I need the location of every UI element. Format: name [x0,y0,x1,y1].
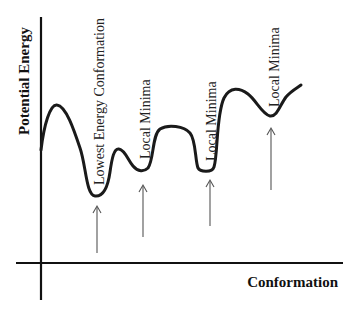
energy-curve [41,85,301,196]
arrow-lowest-energy [93,206,101,253]
energy-landscape-diagram: Potential Energy Conformation Lowest Ene… [0,0,358,312]
arrow-local-minima-2 [206,180,214,226]
annotation-local-minima-3: Local Minima [267,27,282,107]
arrow-local-minima-3 [267,128,275,190]
arrow-local-minima-1 [139,185,147,237]
annotation-local-minima-2: Local Minima [204,81,219,161]
x-axis-label: Conformation [247,274,338,290]
y-axis-label: Potential Energy [16,27,32,135]
annotation-lowest-energy: Lowest Energy Conformation [92,18,107,185]
annotation-local-minima-1: Local Minima [138,79,153,159]
